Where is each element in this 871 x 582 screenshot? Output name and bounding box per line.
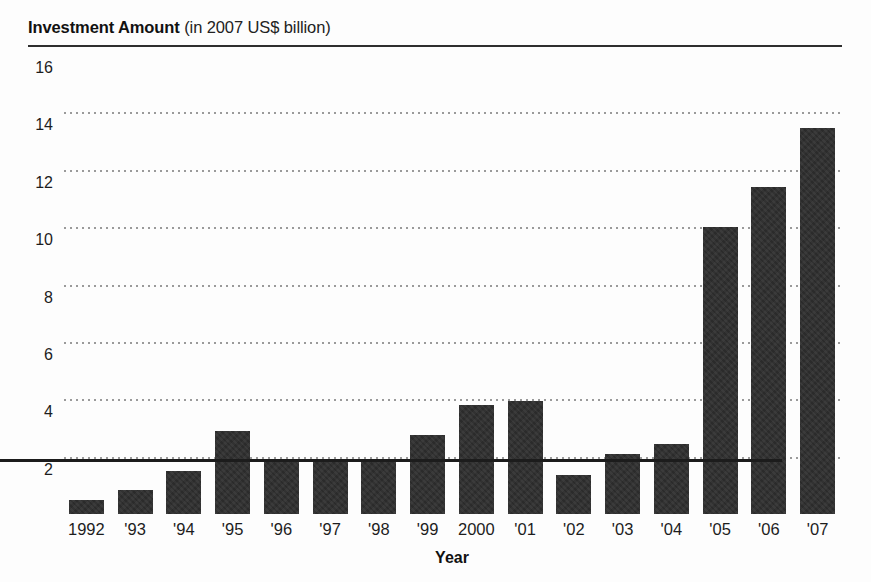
x-axis-tick-labels: 1992'93'94'95'96'97'98'992000'01'02'03'0…: [62, 520, 842, 546]
x-axis-tick-label: '02: [550, 520, 599, 539]
y-axis-tick-label: 4: [44, 403, 53, 421]
y-axis-tick-label: 10: [35, 231, 53, 249]
y-axis-tick-label: 6: [44, 346, 53, 364]
bar: [264, 460, 299, 515]
x-axis-tick-label: '99: [403, 520, 452, 539]
bar: [556, 475, 591, 514]
bar: [508, 401, 543, 514]
bar-series: [62, 55, 842, 514]
y-axis-tick-label: 16: [35, 59, 53, 77]
bar: [361, 460, 396, 515]
x-axis-tick-label: '06: [745, 520, 794, 539]
bar: [654, 444, 689, 514]
x-axis-line: [0, 459, 782, 462]
x-axis-tick-label: '95: [208, 520, 257, 539]
chart-title-units: (in 2007 US$ billion): [180, 18, 331, 36]
plot-area: 246810121416: [62, 55, 842, 514]
bar: [215, 431, 250, 514]
y-axis-tick-label: 8: [44, 289, 53, 307]
x-axis-tick-label: '97: [306, 520, 355, 539]
x-axis-tick-label: '96: [257, 520, 306, 539]
bar: [166, 471, 201, 514]
x-axis-tick-label: '94: [160, 520, 209, 539]
chart-title: Investment Amount (in 2007 US$ billion): [28, 18, 843, 37]
x-axis-tick-label: 1992: [62, 520, 111, 539]
bar: [605, 454, 640, 514]
bar: [800, 128, 835, 514]
bar: [313, 461, 348, 514]
y-axis-tick-label: 14: [35, 116, 53, 134]
x-axis-tick-label: '04: [647, 520, 696, 539]
bar: [69, 500, 104, 514]
x-axis-tick-label: '07: [793, 520, 842, 539]
x-axis-tick-label: '01: [501, 520, 550, 539]
y-axis-tick-label: 12: [35, 174, 53, 192]
chart-figure: Investment Amount (in 2007 US$ billion) …: [0, 0, 871, 582]
x-axis-title: Year: [62, 549, 842, 567]
title-divider: [28, 45, 842, 47]
x-axis-tick-label: '93: [111, 520, 160, 539]
x-axis-tick-label: '05: [696, 520, 745, 539]
bar: [118, 490, 153, 514]
x-axis-tick-label: '98: [355, 520, 404, 539]
chart-title-bold: Investment Amount: [28, 18, 180, 36]
x-axis-tick-label: 2000: [452, 520, 501, 539]
bar: [751, 187, 786, 514]
x-axis-tick-label: '03: [598, 520, 647, 539]
bar: [410, 435, 445, 514]
y-axis-tick-label: 2: [44, 461, 53, 479]
bar: [703, 227, 738, 514]
